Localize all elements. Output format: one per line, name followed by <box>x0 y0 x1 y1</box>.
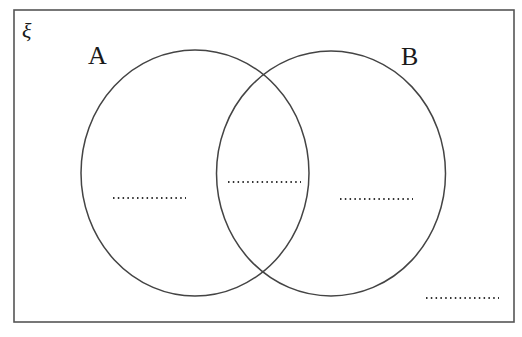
set-a-circle <box>81 50 309 296</box>
venn-diagram: ξ A B <box>0 0 522 337</box>
set-b-label: B <box>401 42 418 71</box>
set-a-label: A <box>88 41 107 70</box>
set-b-circle <box>217 51 446 296</box>
universal-set-symbol: ξ <box>22 18 32 43</box>
